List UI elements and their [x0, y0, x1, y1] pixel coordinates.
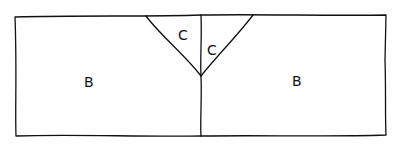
- label-right-c: C: [207, 42, 217, 58]
- label-left-b: B: [84, 74, 94, 90]
- label-right-b: B: [292, 73, 302, 89]
- left-triangle-edge: [146, 16, 201, 76]
- diagram: B B C C: [0, 0, 399, 147]
- diagram-canvas: B B C C: [0, 0, 399, 147]
- label-left-c: C: [178, 27, 188, 43]
